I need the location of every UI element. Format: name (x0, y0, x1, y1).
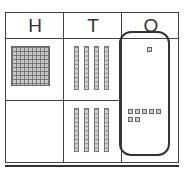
one-cube (147, 47, 152, 52)
hundred-flat (11, 46, 50, 86)
ten-rod (84, 46, 89, 90)
bottom-rule (5, 165, 179, 167)
ten-rod (104, 46, 109, 90)
one-cube (135, 109, 140, 114)
header-hundreds: H (6, 13, 64, 39)
one-cube (156, 109, 161, 114)
one-cube (128, 117, 133, 122)
one-cube (128, 109, 133, 114)
ten-rod (74, 46, 79, 90)
one-cube (142, 109, 147, 114)
one-cube (149, 109, 154, 114)
header-tens: T (64, 13, 122, 39)
row-divider (6, 100, 121, 101)
ten-rod (104, 108, 109, 152)
ten-rod (94, 108, 99, 152)
ten-rod (74, 108, 79, 152)
ones-grouping-frame (119, 31, 170, 156)
ten-rod (94, 46, 99, 90)
ten-rod (84, 108, 89, 152)
one-cube (135, 117, 140, 122)
